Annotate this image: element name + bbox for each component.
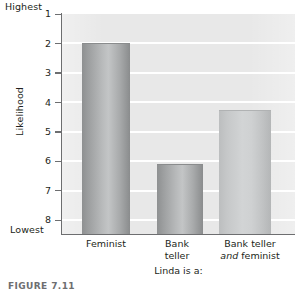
x-category-label-bank-teller-and-feminist: Bank teller and feminist (205, 238, 295, 261)
y-tick-2 (55, 43, 61, 44)
x-axis-title: Linda is a: (62, 265, 295, 276)
y-tick-label-2: 2 (29, 38, 51, 49)
y-tick-7 (55, 190, 61, 191)
figure-caption: FIGURE 7.11 (8, 281, 75, 291)
y-tick-label-5: 5 (29, 126, 51, 137)
y-tick-8 (55, 220, 61, 221)
y-axis-line (61, 13, 62, 235)
y-axis-title: Likelihood (14, 72, 25, 152)
x-category-line-italic-and: and feminist (205, 250, 295, 262)
y-tick-label-7: 7 (29, 185, 51, 196)
y-tick-1 (55, 14, 61, 15)
y-axis-lowest-label: Lowest (10, 224, 44, 235)
bar-bank-teller-and-feminist (219, 110, 271, 234)
x-category-line: Bank teller (205, 238, 295, 250)
y-tick-6 (55, 161, 61, 162)
y-tick-label-8: 8 (29, 214, 51, 225)
y-tick-3 (55, 72, 61, 73)
x-category-line: teller (150, 250, 204, 262)
y-tick-label-6: 6 (29, 155, 51, 166)
plot-area (62, 14, 295, 234)
x-category-line: Bank (150, 238, 204, 250)
y-tick-label-1: 1 (29, 8, 51, 19)
y-tick-label-3: 3 (29, 67, 51, 78)
x-category-line: Feminist (62, 238, 150, 250)
y-tick-4 (55, 102, 61, 103)
bar-feminist (82, 43, 130, 234)
y-tick-label-4: 4 (29, 97, 51, 108)
x-category-label-bank-teller: Bank teller (150, 238, 204, 261)
plot-background (62, 14, 295, 234)
y-tick-5 (55, 131, 61, 132)
x-axis-line (61, 234, 295, 235)
bar-bank-teller (157, 164, 203, 234)
x-category-label-feminist: Feminist (62, 238, 150, 250)
